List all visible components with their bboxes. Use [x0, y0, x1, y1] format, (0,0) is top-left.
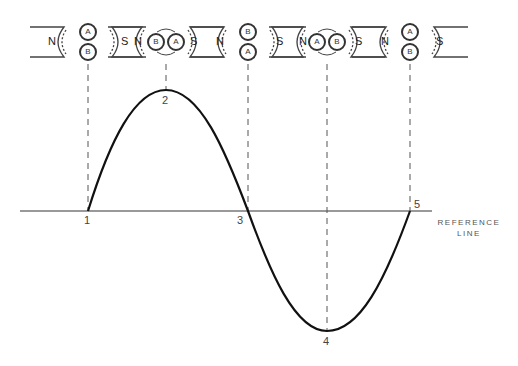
south-pole-label: S	[121, 35, 128, 47]
coil-left: A	[308, 33, 326, 51]
point-label-5: 5	[414, 198, 420, 210]
south-pole-label: S	[276, 35, 283, 47]
north-pole-label: N	[216, 35, 224, 47]
coil-left: B	[147, 33, 165, 51]
coil-right: B	[328, 33, 346, 51]
reference-label-line1: REFERENCE	[434, 217, 504, 228]
point-label-1: 1	[84, 214, 90, 226]
coil-bottom: B	[79, 43, 97, 61]
coil-bottom: B	[401, 43, 419, 61]
north-pole-label: N	[48, 35, 56, 47]
north-pole-label: N	[381, 35, 389, 47]
sine-wave-diagram	[0, 0, 518, 366]
coil-bottom: A	[239, 43, 257, 61]
coil-top: A	[79, 23, 97, 41]
reference-label-line2: LINE	[434, 228, 504, 239]
point-label-3: 3	[237, 214, 243, 226]
north-pole-label: N	[299, 35, 307, 47]
south-pole-label: S	[190, 35, 197, 47]
coil-right: A	[167, 33, 185, 51]
north-pole-label: N	[134, 35, 142, 47]
dashed-guides	[88, 64, 410, 331]
coil-top: A	[401, 23, 419, 41]
south-pole-label: S	[355, 35, 362, 47]
point-label-4: 4	[323, 335, 329, 347]
south-pole-label: S	[436, 35, 443, 47]
reference-line-label: REFERENCE LINE	[434, 217, 504, 239]
point-label-2: 2	[162, 94, 168, 106]
coil-top: B	[239, 23, 257, 41]
